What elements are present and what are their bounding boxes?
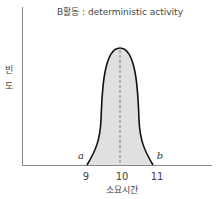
y-axis-label-char-2: 도 bbox=[5, 81, 13, 91]
x-tick-10: 10 bbox=[116, 171, 129, 182]
x-axis-label: 소요시간 bbox=[106, 185, 138, 195]
x-tick-11: 11 bbox=[151, 171, 164, 182]
label-a: a bbox=[78, 150, 84, 161]
x-tick-9: 9 bbox=[83, 171, 89, 182]
chart-title: B활동 : deterministic activity bbox=[57, 6, 184, 17]
y-axis-label-char-1: 빈 bbox=[5, 65, 13, 75]
distribution-chart: B활동 : deterministic activity 빈 도 a b 9 1… bbox=[0, 0, 218, 199]
label-b: b bbox=[157, 150, 163, 161]
